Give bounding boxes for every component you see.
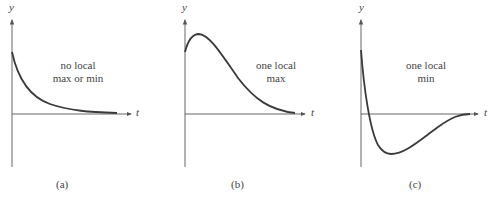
figure-canvas <box>0 0 498 202</box>
panel-a <box>12 20 131 167</box>
caption-c: (c) <box>409 178 421 190</box>
y-axis-label-c: y <box>359 1 364 13</box>
caption-b: (b) <box>231 178 244 190</box>
annotation-b-line2: max <box>245 72 307 85</box>
t-axis-label-c: t <box>484 106 487 118</box>
caption-a: (a) <box>56 178 68 190</box>
panel-b <box>185 20 305 167</box>
annotation-c: one local min <box>398 59 454 85</box>
annotation-a-line2: max or min <box>46 72 110 85</box>
panel-c <box>361 20 478 167</box>
annotation-c-line2: min <box>398 72 454 85</box>
annotation-c-line1: one local <box>398 59 454 72</box>
annotation-b: one local max <box>245 59 307 85</box>
annotation-a-line1: no local <box>46 59 110 72</box>
annotation-b-line1: one local <box>245 59 307 72</box>
y-axis-label-b: y <box>182 1 187 13</box>
annotation-a: no local max or min <box>46 59 110 85</box>
t-axis-label-a: t <box>136 106 139 118</box>
t-axis-label-b: t <box>311 106 314 118</box>
y-axis-label-a: y <box>9 1 14 13</box>
